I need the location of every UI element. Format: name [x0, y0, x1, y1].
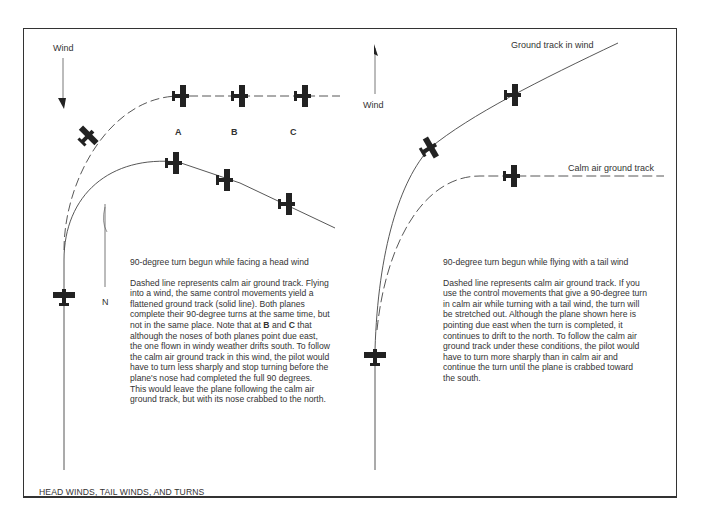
calm-track-label: Calm air ground track [568, 163, 654, 173]
position-label-a: A [175, 127, 182, 137]
position-label-c: C [290, 127, 297, 137]
plane-icon [278, 193, 295, 215]
right-wind-label: Wind [363, 100, 384, 110]
right-wind-arrow [374, 44, 378, 94]
left-wind-arrow [58, 58, 66, 109]
plane-icon [294, 85, 311, 107]
plane-icon [73, 123, 101, 151]
plane-icon [172, 85, 189, 107]
wind-track-label: Ground track in wind [511, 40, 594, 50]
plane-icon [504, 84, 521, 106]
right-caption-title: 90-degree turn begun while flying with a… [443, 257, 647, 268]
plane-icon [165, 152, 182, 174]
plane-icon [503, 165, 520, 187]
figure-title: HEAD WINDS, TAIL WINDS, AND TURNS [39, 487, 204, 497]
north-label: N [102, 297, 109, 307]
left-caption: 90-degree turn begun while facing a head… [130, 257, 330, 405]
plane-icon [416, 135, 442, 163]
right-caption-body: Dashed line represents calm air ground t… [443, 278, 647, 384]
plane-icon [216, 169, 233, 191]
position-label-b: B [231, 127, 238, 137]
left-caption-title: 90-degree turn begun while facing a head… [130, 257, 330, 268]
left-wind-label: Wind [53, 43, 74, 53]
plane-icon [53, 289, 75, 306]
plane-icon [231, 85, 248, 107]
left-caption-body: Dashed line represents calm air ground t… [130, 278, 330, 405]
plane-icon [364, 349, 386, 366]
right-caption: 90-degree turn begun while flying with a… [443, 257, 647, 384]
north-indicator [103, 204, 107, 287]
